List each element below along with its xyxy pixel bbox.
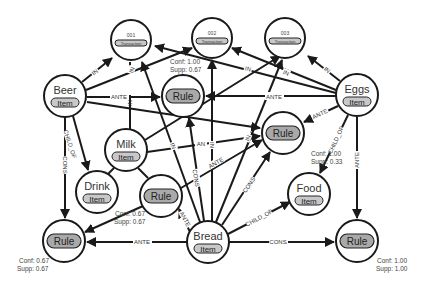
edge-label-cons: CONS [242, 176, 257, 194]
nodes: 001 Transaction 002 Transaction 003 Tran… [43, 18, 378, 263]
node-title: 001 [127, 32, 136, 38]
node-type-badge: Item [57, 99, 73, 108]
node-title: Beer [53, 84, 77, 96]
edge-milk-drink [108, 168, 114, 174]
rule-mid-conf: Conf: 0.67 [115, 210, 145, 217]
node-type-badge: Transaction [202, 39, 223, 44]
node-rule-right[interactable]: Rule [262, 112, 304, 154]
node-transaction-003[interactable]: 003 Transaction [265, 18, 305, 58]
node-rule-top[interactable]: Rule [162, 75, 204, 117]
node-item-bread[interactable]: Bread Item [187, 221, 229, 263]
graph-svg: IN IN ANTE IN CHILD_OF CONS IN IN IN ANT… [0, 0, 423, 288]
rule-bl-supp: Supp: 0.67 [17, 265, 49, 273]
edge-label-ante: ANTE [179, 211, 192, 228]
edge-beer-drink [73, 116, 88, 170]
node-type-badge: Item [118, 153, 134, 162]
node-type-badge: Rule [151, 191, 172, 202]
edge-label-ante: ANTE [134, 239, 150, 245]
node-type-badge: Item [349, 98, 365, 107]
rule-right-conf: Conf: 1.00 [311, 150, 341, 157]
node-title: Milk [116, 138, 136, 150]
edge-label-cons: CONS [62, 156, 68, 173]
edge-label-ante: ANTE [266, 94, 282, 100]
node-type-badge: Item [200, 245, 216, 254]
node-title: Bread [193, 230, 222, 242]
edge-label-cons: CONS [269, 239, 286, 245]
node-transaction-001[interactable]: 001 Transaction [111, 20, 151, 60]
node-item-food[interactable]: Food Item [288, 173, 330, 215]
rule-right-supp: Supp: 0.33 [311, 158, 343, 166]
node-transaction-002[interactable]: 002 Transaction [192, 18, 232, 58]
node-type-badge: Transaction [275, 39, 296, 44]
node-type-badge: Transaction [121, 41, 142, 46]
node-type-badge: Item [89, 195, 105, 204]
node-item-milk[interactable]: Milk Item [105, 129, 147, 171]
node-item-beer[interactable]: Beer Item [44, 75, 86, 117]
rule-top-supp: Supp: 0.67 [170, 66, 202, 74]
node-rule-bottom-right[interactable]: Rule [336, 220, 378, 262]
rule-bl-conf: Conf: 0.67 [19, 257, 49, 264]
rule-top-conf: Conf: 1.00 [170, 58, 200, 65]
node-title: 002 [208, 30, 217, 36]
node-item-eggs[interactable]: Eggs Item [336, 74, 378, 116]
node-title: Eggs [344, 83, 370, 95]
node-type-badge: Item [301, 197, 317, 206]
edge-label-cons: CONS [192, 169, 201, 187]
rule-mid-supp: Supp: 0.67 [114, 218, 146, 226]
edge-label-in: IN [209, 142, 215, 148]
node-title: Food [296, 182, 321, 194]
edge-label-an: AN [197, 141, 205, 147]
node-title: 003 [281, 30, 290, 36]
edge-label-in: IN [127, 100, 133, 106]
node-type-badge: Rule [273, 128, 294, 139]
edge-label-child-of: CHILD_OF [244, 208, 273, 227]
node-type-badge: Rule [347, 236, 368, 247]
edge-label-ante: ANTE [311, 108, 328, 120]
node-item-drink[interactable]: Drink Item [76, 171, 118, 213]
node-type-badge: Rule [54, 236, 75, 247]
node-type-badge: Rule [173, 91, 194, 102]
rule-br-conf: Conf: 1.00 [377, 257, 407, 264]
node-title: Drink [84, 180, 110, 192]
edge-milk-rule-mid [138, 168, 148, 178]
node-rule-mid[interactable]: Rule [140, 175, 182, 217]
node-rule-bottom-left[interactable]: Rule [43, 220, 85, 262]
edge-label-ante: ANTE [111, 94, 127, 100]
graph-canvas: IN IN ANTE IN CHILD_OF CONS IN IN IN ANT… [0, 0, 423, 288]
rule-br-supp: Supp: 1.00 [376, 265, 408, 273]
edge-label-ante: ANTE [354, 152, 360, 168]
